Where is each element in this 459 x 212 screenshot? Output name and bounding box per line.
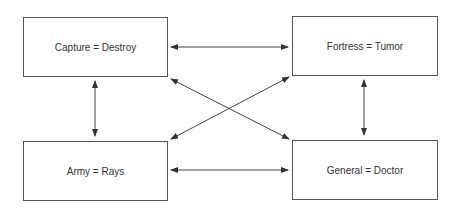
box-fortress-tumor: Fortress = Tumor bbox=[292, 16, 438, 76]
box-general-doctor: General = Doctor bbox=[292, 140, 438, 200]
box-capture-destroy: Capture = Destroy bbox=[23, 17, 168, 77]
analogy-diagram: Capture = Destroy Fortress = Tumor Army … bbox=[0, 0, 459, 212]
box-label: Capture = Destroy bbox=[55, 42, 136, 53]
box-label: General = Doctor bbox=[327, 165, 403, 176]
box-label: Fortress = Tumor bbox=[327, 41, 403, 52]
box-army-rays: Army = Rays bbox=[23, 141, 168, 201]
box-label: Army = Rays bbox=[67, 166, 125, 177]
